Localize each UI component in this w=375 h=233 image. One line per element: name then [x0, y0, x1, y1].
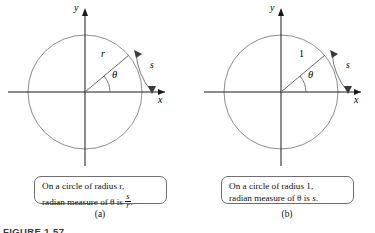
arc-label: s [150, 60, 154, 70]
diagram-b [188, 0, 375, 175]
arc-s-arrowhead-top [330, 50, 338, 58]
figure-panel-b: y x 1 θ s On a circle of radius 1, radia… [188, 0, 375, 233]
caption-box-b: On a circle of radius 1, radian measure … [221, 176, 354, 204]
angle-arc [104, 76, 110, 92]
caption-line-2: radian measure of θ is s. [229, 193, 346, 205]
arc-s-arrowhead-top [134, 50, 142, 58]
y-axis-arrowhead [82, 8, 88, 16]
y-axis-label: y [270, 2, 274, 13]
figure-container: y x r θ s On a circle of radius r, radia… [0, 0, 375, 233]
arc-s-arrowhead-bottom [344, 86, 352, 94]
radius-label: 1 [299, 48, 304, 59]
caption-line-1: On a circle of radius r, [42, 181, 159, 193]
diagram-a [0, 0, 187, 175]
panel-sublabel-a: (a) [70, 209, 130, 219]
caption-line-2-suffix: . [316, 193, 318, 203]
radius-label: r [101, 48, 105, 59]
arc-label: s [346, 60, 350, 70]
caption-line-2-prefix: radian measure of θ is [229, 193, 312, 203]
caption-line-2-suffix: . [131, 197, 133, 207]
x-axis-label: x [158, 94, 162, 105]
arc-s-arrowhead-bottom [148, 86, 156, 94]
caption-line-1: On a circle of radius 1, [229, 181, 346, 193]
radius-ray [85, 55, 129, 92]
angle-arc [300, 76, 306, 92]
y-axis-label: y [74, 2, 78, 13]
x-axis-label: x [354, 94, 358, 105]
y-axis-arrowhead [278, 8, 284, 16]
figure-number-label: FIGURE 1.57 [3, 226, 64, 233]
caption-line-2-prefix: radian measure of θ is [42, 197, 125, 207]
figure-panel-a: y x r θ s On a circle of radius r, radia… [0, 0, 187, 233]
radius-ray [281, 55, 325, 92]
angle-label: θ [308, 69, 313, 80]
angle-label: θ [112, 69, 117, 80]
panel-sublabel-b: (b) [257, 209, 317, 219]
caption-box-a: On a circle of radius r, radian measure … [34, 176, 167, 204]
